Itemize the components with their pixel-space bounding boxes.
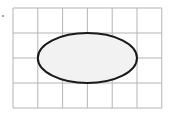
marker-dot xyxy=(2,15,4,17)
grid-diagram xyxy=(0,0,170,115)
shaded-ellipse xyxy=(38,33,137,83)
diagram-canvas xyxy=(0,0,170,115)
